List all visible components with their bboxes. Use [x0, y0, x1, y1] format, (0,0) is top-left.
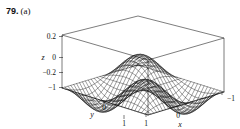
z-tick-label-3: −1: [48, 83, 56, 92]
surface-plot-svg: 0.2 0 −0.2 −1 z 0 1 y 1 0 −1 x: [0, 0, 240, 129]
surface-plot: 0.2 0 −0.2 −1 z 0 1 y 1 0 −1 x: [0, 0, 240, 129]
y-tick-label-0: 0: [102, 103, 106, 112]
axis-ticks: [59, 37, 222, 120]
wireframe-mesh: [62, 54, 224, 115]
y-tick-label-1: 1: [122, 119, 126, 128]
x-tick-label-0: 1: [144, 119, 148, 128]
z-tick-label-1: 0: [52, 53, 56, 62]
z-tick-label-0: 0.2: [47, 32, 57, 41]
x-tick-label-1: 0: [176, 111, 180, 120]
x-axis-label: x: [177, 120, 182, 129]
z-axis-tick-labels: 0.2 0 −0.2 −1: [42, 32, 56, 92]
z-tick-label-2: −0.2: [42, 68, 56, 77]
y-axis-label: y: [89, 110, 94, 119]
x-tick-label-2: −1: [227, 94, 235, 103]
figure-container: 79.(a): [0, 0, 240, 129]
z-axis-label: z: [40, 53, 45, 62]
